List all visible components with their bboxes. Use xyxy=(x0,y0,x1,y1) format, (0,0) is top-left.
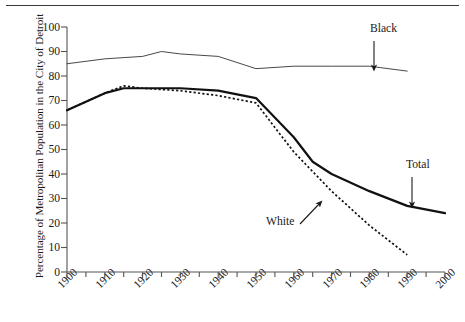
series-line-white xyxy=(67,86,407,255)
chart-plot-area xyxy=(0,0,465,322)
series-line-black xyxy=(67,52,407,72)
y-axis-ticks xyxy=(61,27,67,272)
axis-lines xyxy=(67,27,445,272)
series-line-total xyxy=(67,88,445,213)
figure-container: Percentage of Metropolitan Population in… xyxy=(0,0,465,322)
arrow-white-icon xyxy=(300,203,320,224)
x-axis-ticks xyxy=(67,272,445,278)
annotation-arrows xyxy=(300,41,412,224)
